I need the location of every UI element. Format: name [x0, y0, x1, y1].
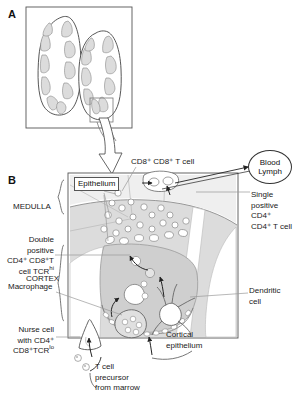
cortical-epithelium-arrow — [149, 337, 152, 355]
t-cell-precursor-line1: T cell — [95, 362, 140, 373]
dendritic-cell-line2: cell — [249, 297, 295, 308]
cortical-epithelium-label: Cortical epithelium — [166, 330, 202, 351]
single-positive-line1: Single — [251, 190, 295, 201]
single-positive-line2: positive — [251, 201, 295, 212]
nurse-cell-label: Nurse cell with CD4⁺ CD8⁺TCRlo — [0, 325, 54, 357]
thymus-t-cell-development-figure: A — [0, 0, 295, 402]
epithelium-label-box: Epithelium — [74, 177, 119, 191]
thymus-lobe-left — [38, 16, 81, 115]
single-positive-line3: CD4⁺ — [251, 211, 295, 222]
t-cell-precursor-line3: from marrow — [95, 383, 140, 394]
nurse-cell-line3: CD8⁺TCRlo — [0, 346, 54, 357]
t-cell-precursor-label: T cell precursor from marrow — [95, 362, 140, 394]
t-cell-precursor-line2: precursor — [95, 373, 140, 384]
tcr-lo-superscript: lo — [49, 344, 54, 350]
medulla-brace — [58, 180, 64, 214]
cortex-septum-left — [70, 247, 103, 337]
lymph-label: Lymph — [258, 167, 282, 177]
cd8-t-cell-label: CD8⁺ CD8⁺ T cell — [131, 157, 194, 168]
cortical-epithelium-leader — [152, 351, 192, 359]
medulla-label: MEDULLA — [13, 202, 51, 213]
epithelium-label: Epithelium — [78, 179, 115, 188]
dendritic-cell-label: Dendritic cell — [249, 286, 295, 307]
double-positive-line3: CD4⁺ CD8⁺T — [0, 256, 54, 267]
double-positive-label: Double positive CD4⁺ CD8⁺T cell TCRhi — [0, 235, 54, 277]
dendritic-cell-line1: Dendritic — [249, 286, 295, 297]
double-positive-line1: Double — [0, 235, 54, 246]
tcr-hi-superscript: hi — [49, 265, 54, 271]
nurse-cell-line2: with CD4⁺ — [0, 336, 54, 347]
nurse-cell-line1: Nurse cell — [0, 325, 54, 336]
double-positive-line2: positive — [0, 246, 54, 257]
single-positive-label: Single positive CD4⁺ CD4⁺ T cell — [251, 190, 295, 232]
mature-t-cell-pair — [143, 171, 179, 191]
macrophage-label: Macrophage — [8, 282, 52, 293]
thymus-lobe-right — [79, 31, 121, 120]
double-positive-line4: cell TCRhi — [0, 267, 54, 278]
cortical-epithelium-line2: epithelium — [166, 341, 202, 352]
single-positive-line4: CD4⁺ T cell — [251, 222, 295, 233]
blood-label: Blood — [260, 158, 280, 168]
blood-lymph-oval: Blood Lymph — [248, 150, 292, 184]
cortical-epithelium-line1: Cortical — [166, 330, 202, 341]
